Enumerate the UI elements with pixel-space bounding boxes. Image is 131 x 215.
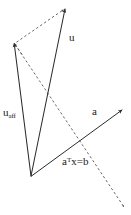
label-vector-a: a: [92, 106, 97, 117]
hyperplane-dashed-line: [15, 45, 124, 207]
vector-diagram-figure: u uaff a aTx=b: [0, 0, 131, 215]
equation-rest: x=b: [71, 155, 88, 167]
label-u-aff-subscript: aff: [9, 112, 16, 120]
label-vector-u-aff: uaff: [3, 107, 16, 120]
top-dashed-edge: [17, 10, 64, 43]
vector-u-line: [31, 9, 65, 176]
vector-diagram-canvas: [0, 0, 131, 215]
label-hyperplane-equation: aTx=b: [62, 156, 88, 167]
vector-u-aff-line: [14, 44, 31, 177]
label-vector-u: u: [69, 32, 75, 43]
